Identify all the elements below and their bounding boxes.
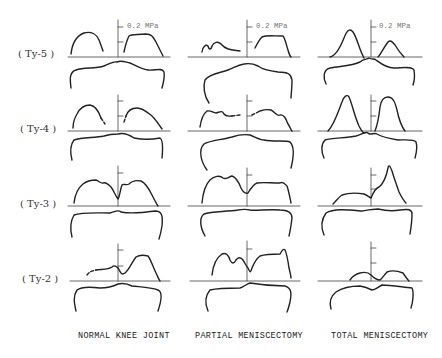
panel-ty3-total <box>318 166 422 235</box>
panel-ty5-total <box>318 20 422 85</box>
pressure-curves <box>0 0 442 358</box>
panel-ty5-normal <box>68 20 170 88</box>
panel-ty4-total <box>318 95 422 158</box>
panel-ty5-partial <box>188 20 300 103</box>
panel-ty3-normal <box>68 166 170 239</box>
panel-ty2-partial <box>190 241 300 312</box>
panel-ty3-partial <box>188 168 300 236</box>
panel-ty4-normal <box>68 95 170 160</box>
pressure-distribution-figure: ( Ty-5 ) ( Ty-4 ) ( Ty-3 ) ( Ty-2 ) 0.2 … <box>0 0 442 358</box>
panel-ty4-partial <box>188 95 300 170</box>
panel-ty2-normal <box>70 244 170 311</box>
panel-ty2-total <box>318 242 422 309</box>
